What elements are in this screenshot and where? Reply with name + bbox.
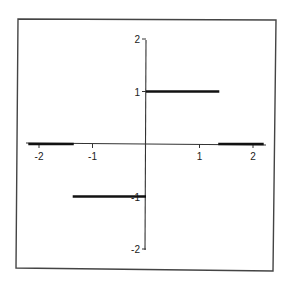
x-tick-label: 1 [197, 151, 203, 162]
x-tick-label: -2 [35, 151, 44, 162]
x-tick-label: 2 [250, 151, 256, 162]
function-plot: -2-112 21-1-2 [0, 0, 290, 289]
x-tick-label: -1 [88, 151, 97, 162]
y-tick-label: 1 [134, 87, 140, 98]
y-axis [145, 40, 146, 250]
y-tick-label: -2 [131, 244, 140, 255]
y-tick-label: 2 [134, 34, 140, 45]
